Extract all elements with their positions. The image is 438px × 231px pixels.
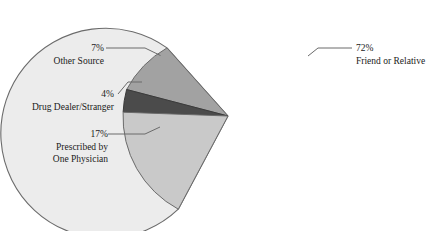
leader-line-friend-or-relative — [308, 48, 352, 56]
pie-label-other-source: 7% Other Source — [54, 42, 104, 67]
pie-label-drug-dealer-stranger-percent: 4% — [32, 88, 114, 101]
pie-label-drug-dealer-stranger-name: Drug Dealer/Stranger — [32, 101, 114, 114]
pie-label-prescribed-one-physician: 17% Prescribed by One Physician — [53, 128, 108, 166]
pie-label-friend-or-relative-name: Friend or Relative — [356, 55, 425, 68]
pie-label-prescribed-one-physician-name-line2: One Physician — [53, 153, 108, 166]
pie-label-prescribed-one-physician-name-line1: Prescribed by — [53, 141, 108, 154]
pie-chart-canvas — [0, 0, 438, 231]
pie-label-friend-or-relative-percent: 72% — [356, 42, 425, 55]
pie-label-other-source-percent: 7% — [54, 42, 104, 55]
pie-label-prescribed-one-physician-percent: 17% — [53, 128, 108, 141]
pie-label-other-source-name: Other Source — [54, 55, 104, 68]
pie-label-drug-dealer-stranger: 4% Drug Dealer/Stranger — [32, 88, 114, 113]
pie-label-friend-or-relative: 72% Friend or Relative — [356, 42, 425, 67]
pie-chart-figure: 7% Other Source 4% Drug Dealer/Stranger … — [0, 0, 438, 231]
